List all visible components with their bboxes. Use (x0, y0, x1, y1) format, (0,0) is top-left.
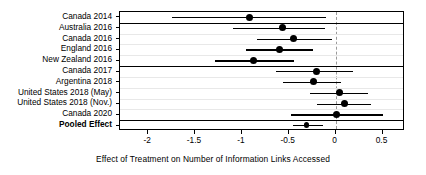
x-axis: -2-1.5-1-0.500.5 (119, 130, 404, 131)
x-tick (335, 130, 336, 134)
x-tick-label: -0.5 (281, 135, 295, 145)
row-label-canada-2020: Canada 2020 (62, 108, 112, 119)
forest-row (120, 44, 403, 55)
group-separator (120, 66, 403, 67)
x-tick-label: -1 (237, 135, 244, 145)
forest-plot-figure: Canada 2014Australia 2016Canada 2016Engl… (0, 0, 426, 175)
row-label-pooled-effect: Pooled Effect (59, 119, 112, 130)
forest-row (120, 109, 403, 120)
row-label-england-2016: England 2016 (61, 43, 112, 54)
row-label-canada-2014: Canada 2014 (62, 11, 112, 22)
x-tick-label: -2 (143, 135, 150, 145)
forest-row (120, 55, 403, 66)
forest-row (120, 23, 403, 34)
point-estimate-marker (279, 24, 286, 31)
row-label-column: Canada 2014Australia 2016Canada 2016Engl… (0, 11, 116, 130)
x-tick (241, 130, 242, 134)
forest-row (120, 77, 403, 88)
forest-row (120, 88, 403, 99)
forest-row (120, 34, 403, 45)
x-tick (194, 130, 195, 134)
plot-area (119, 11, 404, 130)
point-estimate-marker (276, 46, 283, 53)
point-estimate-marker (246, 14, 253, 21)
x-tick (382, 130, 383, 134)
x-tick-label: 0 (332, 135, 337, 145)
group-separator (120, 23, 403, 24)
point-estimate-marker (290, 35, 297, 42)
x-tick-label: -1.5 (187, 135, 201, 145)
forest-row (120, 99, 403, 110)
point-estimate-marker (313, 68, 320, 75)
point-estimate-marker (310, 78, 317, 85)
point-estimate-marker (304, 122, 310, 128)
row-label-canada-2016: Canada 2016 (62, 33, 112, 44)
row-label-australia-2016: Australia 2016 (59, 22, 112, 33)
row-label-argentina-2018: Argentina 2018 (56, 76, 112, 87)
x-axis-label: Effect of Treatment on Number of Informa… (0, 154, 426, 164)
row-label-united-states-2018-may: United States 2018 (May) (18, 87, 112, 98)
group-separator (120, 120, 403, 121)
point-estimate-marker (336, 89, 343, 96)
point-estimate-marker (250, 57, 257, 64)
x-tick (147, 130, 148, 134)
x-tick-label: 0.5 (376, 135, 388, 145)
forest-row (120, 12, 403, 23)
x-tick (288, 130, 289, 134)
forest-row (120, 66, 403, 77)
row-label-canada-2017: Canada 2017 (62, 65, 112, 76)
point-estimate-marker (341, 100, 348, 107)
row-label-new-zealand-2016: New Zealand 2016 (42, 54, 112, 65)
point-estimate-marker (333, 111, 340, 118)
row-label-united-states-2018-nov: United States 2018 (Nov.) (17, 97, 112, 108)
